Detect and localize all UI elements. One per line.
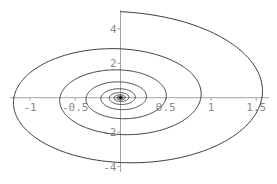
y-tick-label: 2 (110, 57, 117, 70)
axes (10, 10, 269, 172)
x-tick-label: 1 (208, 101, 215, 114)
x-tick-label: -0.5 (62, 101, 89, 114)
spiral-plot: -1-0.50.511.5 -4-224 (0, 0, 277, 184)
x-tick-label: 1.5 (246, 101, 266, 114)
y-ticks: -4-224 (103, 23, 120, 174)
y-tick-label: 4 (110, 23, 117, 36)
spiral-curve (13, 12, 262, 163)
x-tick-label: 0.5 (156, 101, 176, 114)
x-tick-label: -1 (23, 101, 36, 114)
